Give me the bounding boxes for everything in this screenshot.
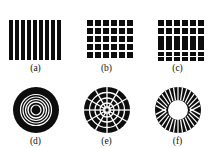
figure-panel-grid: (a) (0, 0, 213, 147)
panel-caption-d: (d) (30, 136, 41, 147)
pattern-mixed-grid-bars (150, 19, 206, 61)
polar-grid-svg (83, 86, 131, 134)
panel-caption-f: (f) (173, 136, 183, 147)
figure-row-bottom: (d) (0, 74, 213, 148)
panel-e: (e) (71, 74, 142, 148)
pattern-square-grid (79, 19, 135, 61)
vertical-stripes-svg (8, 19, 64, 61)
pattern-radial-annulus (154, 86, 202, 134)
panel-c: (c) (142, 0, 213, 74)
panel-caption-c: (c) (172, 63, 183, 74)
square-grid-svg (79, 19, 135, 61)
panel-caption-e: (e) (101, 136, 112, 147)
panel-a: (a) (0, 0, 71, 74)
mixed-grid-bars-svg (150, 19, 206, 61)
figure-row-top: (a) (0, 0, 213, 74)
pattern-concentric-rings (12, 86, 60, 134)
panel-f: (f) (142, 74, 213, 148)
concentric-rings-svg (12, 86, 60, 134)
panel-caption-b: (b) (101, 63, 112, 74)
panel-d: (d) (0, 74, 71, 148)
panel-caption-a: (a) (30, 63, 41, 74)
panel-b: (b) (71, 0, 142, 74)
radial-annulus-svg (154, 86, 202, 134)
pattern-polar-grid (83, 86, 131, 134)
pattern-vertical-stripes (8, 19, 64, 61)
